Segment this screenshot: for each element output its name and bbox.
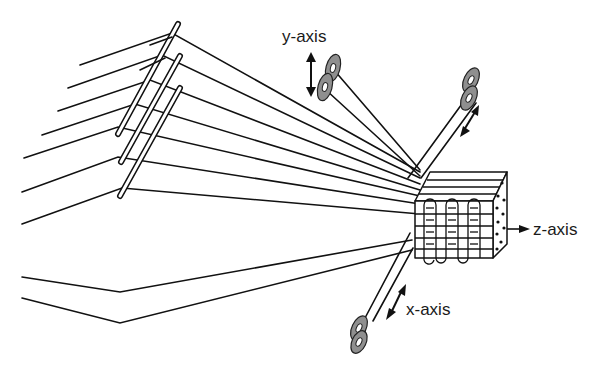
fabric-block — [415, 172, 507, 264]
y-bobbins — [315, 53, 420, 176]
x-axis-label: x-axis — [406, 300, 450, 319]
upper-bobbins — [408, 65, 483, 178]
warp-yarns — [22, 33, 420, 323]
diagram-canvas: y-axis — [0, 0, 606, 375]
y-axis-arrow-icon — [306, 52, 316, 97]
z-axis-label: z-axis — [533, 220, 577, 239]
heddles — [118, 24, 180, 196]
weaving-diagram: y-axis — [0, 0, 606, 375]
y-axis-label: y-axis — [282, 27, 326, 46]
z-axis-arrow-icon — [507, 225, 530, 233]
x-axis-arrow-icon — [386, 284, 406, 320]
